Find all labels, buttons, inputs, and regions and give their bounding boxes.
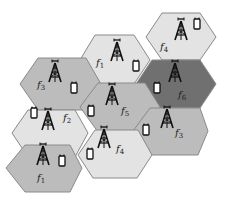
mobile-phone-icon xyxy=(71,82,77,94)
frequency-subscript: 3 xyxy=(41,84,45,92)
mobile-phone-icon xyxy=(31,107,37,119)
frequency-subscript: 5 xyxy=(125,110,129,118)
frequency-subscript: 1 xyxy=(41,177,45,185)
mobile-phone-icon xyxy=(88,105,94,117)
frequency-subscript: 1 xyxy=(100,62,104,70)
mobile-phone-icon xyxy=(59,155,65,167)
mobile-phone-icon xyxy=(194,18,200,30)
mobile-phone-icon xyxy=(133,60,139,72)
frequency-subscript: 2 xyxy=(67,117,71,125)
hexagon-cell-diagram: f4f1f3f6f5f2f3f4f1 xyxy=(0,0,230,198)
frequency-subscript: 6 xyxy=(182,94,187,102)
frequency-subscript: 4 xyxy=(120,148,125,156)
cell-f4-top: f4 xyxy=(146,13,216,60)
frequency-subscript: 4 xyxy=(164,46,169,54)
mobile-phone-icon xyxy=(143,124,149,136)
cell-f1-bottom: f1 xyxy=(6,143,82,193)
mobile-phone-icon xyxy=(154,82,160,94)
cells-layer: f4f1f3f6f5f2f3f4f1 xyxy=(6,13,216,192)
mobile-phone-icon xyxy=(87,148,93,160)
frequency-subscript: 3 xyxy=(179,132,183,140)
